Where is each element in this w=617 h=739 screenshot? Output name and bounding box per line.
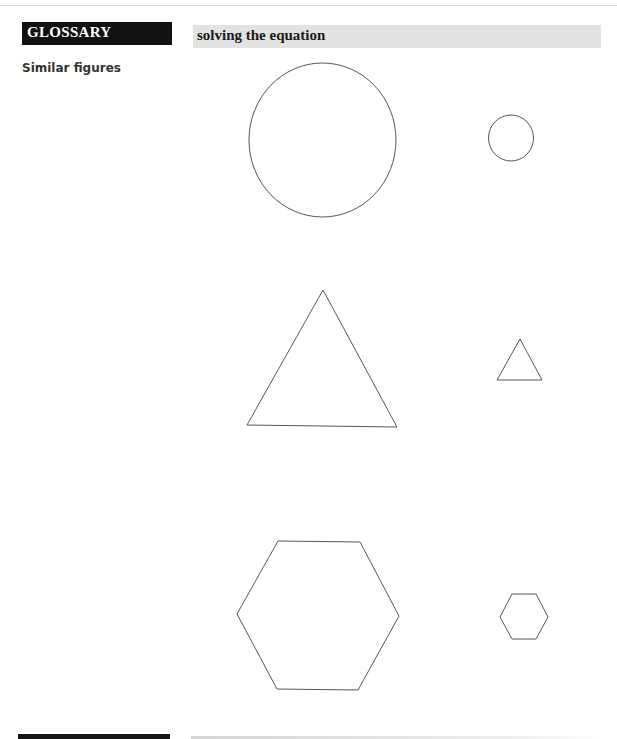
large-circle — [249, 63, 396, 217]
similar-figures-illustration — [0, 0, 617, 739]
large-triangle — [247, 290, 397, 427]
footer-black-bar — [18, 734, 170, 739]
large-hexagon — [237, 541, 399, 690]
small-triangle — [497, 339, 542, 380]
small-circle — [489, 115, 534, 161]
small-hexagon — [500, 594, 548, 639]
